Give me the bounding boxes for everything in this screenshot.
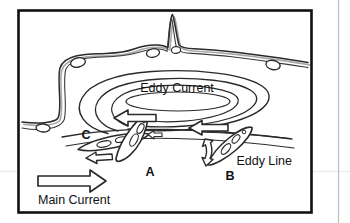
eddy-line-label: Eddy Line: [236, 154, 292, 168]
main-current-label: Main Current: [38, 193, 111, 207]
boulder: [171, 46, 181, 54]
boulder: [36, 124, 50, 133]
eddy-current-label: Eddy Current: [140, 81, 214, 95]
kayak-b-label: B: [225, 169, 234, 183]
kayak-c-label: C: [81, 128, 90, 142]
kayak-b-bow-detail: [242, 130, 246, 134]
figure-page: Eddy Current Eddy Line Main Current A B …: [0, 0, 350, 223]
eddy-diagram: Eddy Current Eddy Line Main Current A B …: [0, 0, 350, 223]
kayak-a-label: A: [145, 165, 154, 179]
